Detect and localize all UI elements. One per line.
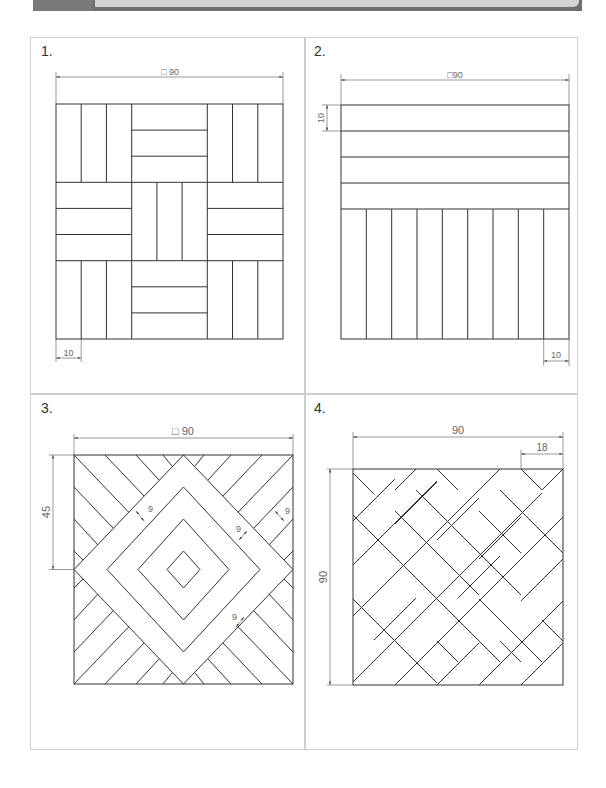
panel-2-dimensions — [322, 74, 569, 366]
panel-2-drawing — [341, 105, 569, 339]
panel-1-dimensions — [56, 72, 283, 362]
panel-3-dimensions — [49, 434, 293, 627]
panel-4-strip-dim: 18 — [536, 442, 548, 453]
panel-1-overall-dim: □ 90 — [161, 67, 179, 77]
panel-3-overall-dim: □ 90 — [172, 425, 194, 437]
panel-3-strip-dim-3: 9 — [285, 506, 290, 516]
panel-1-drawing — [56, 104, 283, 339]
panel-3-half-dim: 45 — [40, 506, 52, 518]
panel-2-overall-dim: □90 — [447, 70, 462, 80]
panel-4-width-dim: 90 — [452, 424, 464, 436]
drawings: □ 90 10 □90 10 10 — [0, 0, 606, 788]
panel-3-strip-dim-4: 9 — [232, 612, 237, 622]
panel-3-drawing — [74, 455, 293, 684]
panel-4-height-dim: 90 — [317, 571, 329, 583]
panel-3-strip-dim-2: 9 — [236, 524, 241, 534]
panel-2-horizontal-strip-dim: 10 — [316, 113, 326, 123]
panel-1-strip-dim: 10 — [63, 348, 73, 358]
panel-3-strip-dim-1: 9 — [148, 504, 153, 514]
panel-2-vertical-strip-dim: 10 — [551, 350, 561, 360]
panel-4-drawing — [353, 469, 563, 685]
